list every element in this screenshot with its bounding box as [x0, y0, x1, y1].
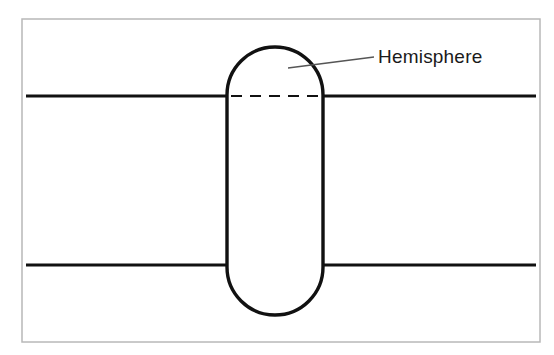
diagram-canvas: Hemisphere — [0, 0, 554, 355]
hemisphere-label: Hemisphere — [378, 46, 482, 67]
capsule-boss-outline — [227, 47, 323, 315]
technical-drawing-figure: Hemisphere — [0, 0, 554, 355]
